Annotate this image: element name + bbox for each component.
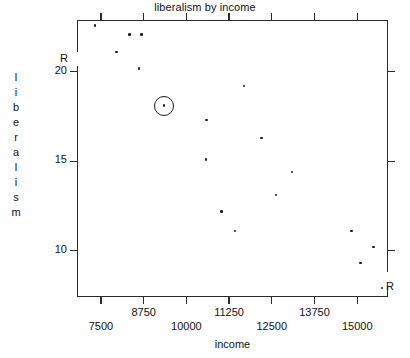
x-tick-top	[228, 13, 229, 20]
axis-marker-r-left: R	[60, 52, 68, 64]
x-tick-bottom	[228, 297, 229, 304]
y-axis-title-letter: l	[8, 160, 24, 175]
y-axis-title-letter: i	[8, 175, 24, 190]
x-tick-bottom	[186, 297, 187, 304]
y-tick-right	[388, 250, 395, 251]
y-tick-label: 10	[25, 243, 67, 255]
plot-frame	[77, 20, 388, 297]
x-tick-top	[271, 13, 272, 20]
x-tick-label: 15000	[327, 320, 387, 332]
y-axis-title-letter: m	[8, 205, 24, 220]
x-tick-label: 12500	[242, 320, 302, 332]
y-axis-title: l i b e r a l i s m	[8, 70, 24, 220]
x-tick-top	[314, 13, 315, 20]
data-point	[260, 137, 263, 140]
y-tick-right	[388, 71, 395, 72]
x-tick-bottom	[357, 297, 358, 304]
x-tick-top	[143, 13, 144, 20]
y-axis-title-letter: r	[8, 130, 24, 145]
x-tick-label: 10000	[156, 320, 216, 332]
y-axis-title-letter: s	[8, 190, 24, 205]
x-tick-label: 7500	[71, 320, 131, 332]
x-tick-label: 8750	[114, 306, 174, 318]
y-tick-right	[388, 161, 395, 162]
y-tick-left	[70, 161, 77, 162]
x-tick-bottom	[143, 297, 144, 304]
x-axis-title: income	[77, 338, 388, 350]
y-tick-label: 20	[25, 64, 67, 76]
y-tick-left	[70, 71, 77, 72]
x-tick-bottom	[271, 297, 272, 304]
x-tick-bottom	[100, 297, 101, 304]
x-tick-top	[357, 13, 358, 20]
x-tick-top	[100, 13, 101, 20]
axis-marker-r-bottom: R	[386, 280, 394, 292]
data-point	[220, 210, 223, 213]
x-tick-label: 13750	[285, 306, 345, 318]
highlighted-point-circle	[154, 96, 174, 116]
data-point	[140, 33, 143, 36]
scatter-plot: liberalism by income l i b e r a l i s m…	[0, 0, 410, 358]
data-point	[128, 33, 131, 36]
y-axis-title-letter: l	[8, 70, 24, 85]
chart-title: liberalism by income	[0, 1, 410, 13]
y-axis-title-letter: i	[8, 85, 24, 100]
x-tick-label: 11250	[199, 306, 259, 318]
data-point	[350, 230, 353, 233]
left-axis-break	[74, 52, 80, 66]
x-tick-top	[186, 13, 187, 20]
y-tick-label: 15	[25, 153, 67, 165]
y-axis-title-letter: a	[8, 145, 24, 160]
y-axis-title-letter: b	[8, 100, 24, 115]
x-tick-bottom	[314, 297, 315, 304]
y-axis-title-letter: e	[8, 115, 24, 130]
y-tick-left	[70, 250, 77, 251]
